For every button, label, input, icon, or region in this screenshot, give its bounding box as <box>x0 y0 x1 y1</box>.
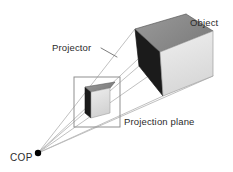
projector-label: Projector <box>52 42 91 53</box>
projected-image-cube <box>85 82 115 118</box>
projected-cube-left-face <box>85 87 91 118</box>
projection-plane-label: Projection plane <box>124 116 195 127</box>
diagram-canvas: Object Projector Projection plane COP <box>0 0 233 172</box>
projector-leader-line <box>101 48 117 57</box>
object-label: Object <box>190 17 219 28</box>
cop-label: COP <box>10 152 33 163</box>
perspective-projection-diagram: Object Projector Projection plane COP <box>0 0 233 172</box>
cop-point-dot <box>35 150 41 156</box>
projected-cube-front-face <box>91 88 110 118</box>
